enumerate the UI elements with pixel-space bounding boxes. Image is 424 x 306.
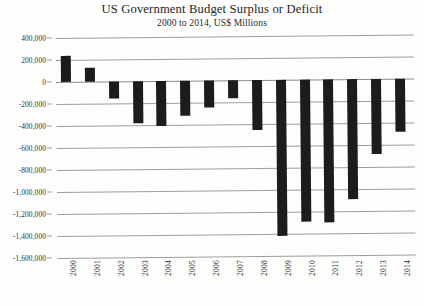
x-axis-tick-label: 2002	[117, 260, 126, 276]
plot-area: 400,000200,0000-200,000-400,000-600,000-…	[0, 0, 424, 306]
bar	[276, 80, 287, 236]
bar-series	[56, 35, 416, 258]
bar	[85, 68, 95, 82]
bar	[347, 79, 358, 199]
x-axis-tick-label: 2004	[164, 260, 173, 276]
bar	[204, 80, 214, 107]
x-axis-tick-label: 2007	[236, 260, 245, 276]
bar	[395, 79, 406, 132]
x-axis-tick-label: 2000	[69, 260, 78, 276]
x-axis-tick-label: 2006	[212, 260, 221, 276]
x-axis-tick-label: 2012	[355, 260, 364, 276]
bar	[323, 79, 334, 222]
bar	[300, 80, 311, 222]
budget-deficit-bar-chart: US Government Budget Surplus or Deficit …	[0, 0, 424, 306]
x-axis-tick-label: 2009	[284, 260, 293, 276]
bar	[61, 56, 71, 82]
x-axis-tick-label: 2014	[403, 260, 412, 276]
bar	[371, 79, 382, 154]
x-axis-tick-label: 2005	[188, 260, 197, 276]
x-axis-tick-label: 2013	[379, 260, 388, 276]
bar	[228, 80, 238, 98]
bar	[156, 81, 166, 127]
x-axis-tick-label: 2011	[331, 260, 340, 276]
bar	[252, 80, 262, 131]
x-axis-tick-label: 2003	[141, 260, 150, 276]
bar	[180, 81, 190, 116]
x-axis-tick-label: 2008	[260, 260, 269, 276]
bar	[109, 81, 119, 98]
x-axis-labels: 2000200120022003200420052006200720082009…	[56, 260, 414, 306]
bar	[133, 81, 143, 123]
x-axis-tick-label: 2001	[93, 260, 102, 276]
x-axis-tick-label: 2010	[308, 260, 317, 276]
